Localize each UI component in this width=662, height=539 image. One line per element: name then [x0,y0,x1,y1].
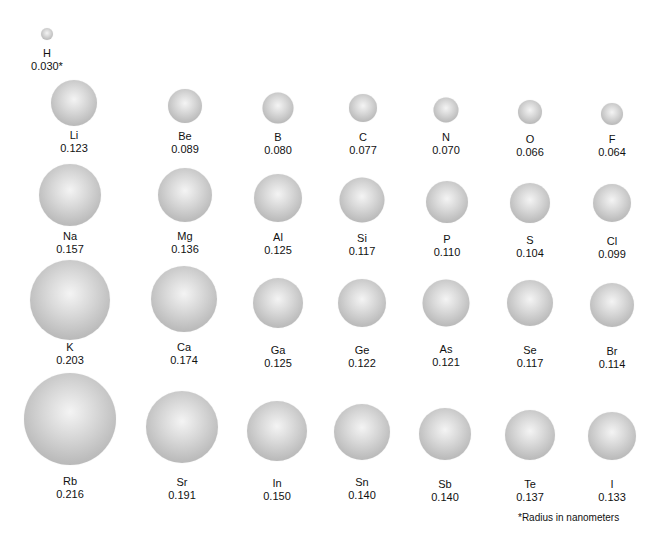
atom-sphere-mg [158,168,212,222]
element-symbol: Te [516,478,544,491]
element-label-i: I0.133 [598,478,626,504]
element-radius: 0.174 [170,354,198,367]
element-radius: 0.136 [171,243,199,256]
atom-sphere-br [590,283,634,327]
atom-sphere-p [426,181,468,223]
element-radius: 0.150 [263,490,291,503]
element-radius: 0.117 [517,357,544,370]
element-symbol: Rb [56,475,84,488]
atom-sphere-h [41,28,53,40]
element-symbol: Mg [171,230,199,243]
atom-sphere-ga [253,278,303,328]
atom-sphere-si [340,178,385,223]
element-label-h: H0.030* [31,47,63,73]
element-symbol: Cl [598,235,626,248]
element-radius: 0.133 [598,491,626,504]
element-label-ca: Ca0.174 [170,341,198,367]
atom-sphere-rb [24,373,116,465]
element-radius: 0.121 [432,356,460,369]
element-radius: 0.140 [348,489,376,502]
element-label-na: Na0.157 [56,230,84,256]
element-symbol: Sr [168,476,196,489]
atom-sphere-k [30,260,110,340]
atom-sphere-in [247,401,307,461]
element-radius: 0.203 [56,354,84,367]
element-symbol: I [598,478,626,491]
atom-sphere-se [507,280,553,326]
element-radius: 0.080 [264,144,292,157]
atom-sphere-cl [593,184,631,222]
element-label-p: P0.110 [434,233,461,259]
element-radius: 0.110 [434,246,461,259]
element-label-ga: Ga0.125 [264,344,292,370]
element-label-c: C0.077 [349,131,377,157]
element-label-k: K0.203 [56,341,84,367]
element-radius: 0.122 [348,357,376,370]
atom-sphere-be [168,89,202,123]
element-radius: 0.104 [516,247,544,260]
element-symbol: Li [60,129,88,142]
atom-sphere-sb [419,408,471,460]
element-symbol: P [434,233,461,246]
element-label-li: Li0.123 [60,129,88,155]
atom-sphere-sn [334,404,390,460]
element-label-ge: Ge0.122 [348,344,376,370]
element-radius: 0.077 [349,144,377,157]
element-symbol: N [432,131,460,144]
element-symbol: Ca [170,341,198,354]
element-symbol: Ge [348,344,376,357]
element-radius: 0.114 [599,358,626,371]
element-radius: 0.191 [168,489,196,502]
element-label-f: F0.064 [598,133,626,159]
element-symbol: C [349,131,377,144]
element-radius: 0.137 [516,491,544,504]
atom-sphere-o [518,100,542,124]
atom-sphere-as [423,280,470,327]
element-radius: 0.140 [431,491,459,504]
footnote: *Radius in nanometers [518,512,619,523]
element-label-b: B0.080 [264,131,292,157]
element-label-te: Te0.137 [516,478,544,504]
element-symbol: Al [264,231,292,244]
element-label-br: Br0.114 [599,345,626,371]
element-label-sb: Sb0.140 [431,478,459,504]
atom-sphere-ca [151,266,217,332]
element-symbol: Na [56,230,84,243]
atom-sphere-b [263,93,294,124]
atom-sphere-s [510,183,550,223]
element-label-be: Be0.089 [171,130,199,156]
element-symbol: Sn [348,476,376,489]
atom-sphere-te [505,410,555,460]
element-label-cl: Cl0.099 [598,235,626,261]
element-symbol: In [263,477,291,490]
element-symbol: O [516,133,544,146]
element-radius: 0.066 [516,146,544,159]
element-radius: 0.216 [56,488,84,501]
atom-sphere-ge [338,279,386,327]
element-symbol: As [432,343,460,356]
element-label-n: N0.070 [432,131,460,157]
element-symbol: H [31,47,63,60]
atom-sphere-c [349,94,377,122]
element-label-s: S0.104 [516,234,544,260]
element-label-si: Si0.117 [349,232,376,258]
element-symbol: Be [171,130,199,143]
element-label-rb: Rb0.216 [56,475,84,501]
element-label-sr: Sr0.191 [168,476,196,502]
element-symbol: K [56,341,84,354]
element-symbol: Sb [431,478,459,491]
element-symbol: F [598,133,626,146]
element-symbol: Si [349,232,376,245]
element-radius: 0.064 [598,146,626,159]
element-radius: 0.125 [264,357,292,370]
atom-sphere-al [254,174,302,222]
element-radius: 0.070 [432,144,460,157]
element-label-mg: Mg0.136 [171,230,199,256]
atom-sphere-n [434,98,459,123]
element-symbol: Ga [264,344,292,357]
element-symbol: Br [599,345,626,358]
element-radius: 0.123 [60,142,88,155]
element-radius: 0.125 [264,244,292,257]
element-radius: 0.117 [349,245,376,258]
element-symbol: B [264,131,292,144]
